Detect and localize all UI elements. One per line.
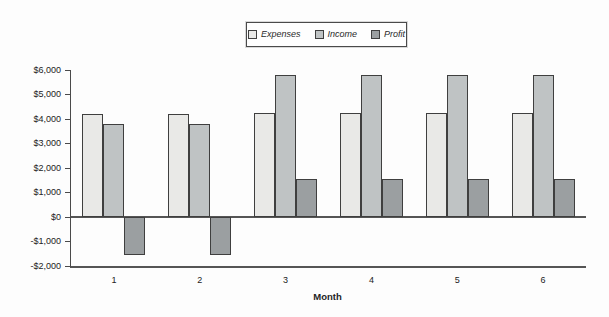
bar-income-month-5 [447,75,468,217]
y-axis-tick [65,70,71,71]
bar-profit-month-6 [554,179,575,217]
x-tick-label: 3 [274,276,298,285]
bar-income-month-3 [275,75,296,217]
bar-profit-month-2 [210,217,231,255]
y-axis-tick [65,143,71,144]
bar-profit-month-4 [382,179,403,217]
bar-income-month-6 [533,75,554,217]
bar-expenses-month-4 [340,113,361,217]
bar-income-month-2 [189,124,210,217]
bar-expenses-month-6 [512,113,533,217]
y-tick-label: -$2,000 [13,262,61,271]
chart-legend: ExpensesIncomeProfit [246,22,407,47]
y-axis-tick [65,119,71,120]
bar-income-month-4 [361,75,382,217]
bar-profit-month-1 [124,217,145,255]
legend-label-profit: Profit [384,30,405,39]
bar-profit-month-3 [296,179,317,217]
bar-expenses-month-2 [168,114,189,217]
legend-label-expenses: Expenses [261,30,301,39]
y-axis-tick [65,94,71,95]
bar-expenses-month-1 [82,114,103,217]
legend-swatch-profit [371,30,380,39]
y-tick-label: $6,000 [13,66,61,75]
bar-expenses-month-5 [426,113,447,217]
bar-income-month-1 [103,124,124,217]
y-tick-label: $2,000 [13,164,61,173]
bar-profit-month-5 [468,179,489,217]
y-axis-tick [65,168,71,169]
y-tick-label: $1,000 [13,188,61,197]
x-tick-label: 6 [531,276,555,285]
y-tick-label: $5,000 [13,90,61,99]
legend-swatch-income [315,30,324,39]
plot-area: $6,000$5,000$4,000$3,000$2,000$1,000$0-$… [70,70,586,268]
bar-expenses-month-3 [254,113,275,217]
y-tick-label: $4,000 [13,115,61,124]
y-tick-label: $3,000 [13,139,61,148]
x-tick-label: 2 [188,276,212,285]
x-tick-label: 1 [102,276,126,285]
y-tick-label: $0 [13,213,61,222]
legend-item-profit: Profit [371,30,405,39]
x-tick-label: 5 [445,276,469,285]
zero-baseline [71,216,586,218]
bar-chart-figure: ExpensesIncomeProfit $6,000$5,000$4,000$… [0,0,609,317]
y-axis-tick [65,192,71,193]
legend-item-expenses: Expenses [248,30,301,39]
x-axis-title: Month [70,291,585,302]
y-tick-label: -$1,000 [13,237,61,246]
y-axis-tick [65,266,71,267]
y-axis-tick [65,241,71,242]
legend-label-income: Income [328,30,358,39]
legend-swatch-expenses [248,30,257,39]
x-tick-label: 4 [359,276,383,285]
legend-item-income: Income [315,30,358,39]
